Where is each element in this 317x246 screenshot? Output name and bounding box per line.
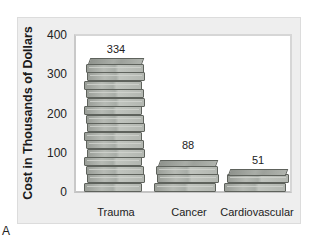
banknote-icon <box>84 81 142 90</box>
banknote-icon <box>224 183 286 192</box>
banknote-icon <box>86 140 144 149</box>
banknote-icon <box>86 166 144 175</box>
banknote-top-icon <box>88 58 145 65</box>
x-tick-cardiovascular: Cardiovascular <box>220 206 293 218</box>
banknote-top-icon <box>228 169 289 176</box>
y-tick-100: 100 <box>47 146 67 160</box>
banknote-icon <box>84 132 142 141</box>
banknote-icon <box>86 64 144 73</box>
banknote-icon <box>86 115 144 124</box>
banknote-icon <box>87 72 145 81</box>
value-label-cardiovascular: 51 <box>252 154 264 166</box>
x-tick-trauma: Trauma <box>97 206 135 218</box>
y-tick-400: 400 <box>47 28 67 42</box>
banknote-icon <box>84 157 142 166</box>
banknote-icon <box>87 149 145 158</box>
y-axis-title: Cost in Thousands of Dollars <box>21 26 35 200</box>
y-tick-0: 0 <box>60 185 67 199</box>
y-tick-200: 200 <box>47 107 67 121</box>
banknote-icon <box>86 89 144 98</box>
x-tick-cancer: Cancer <box>171 206 206 218</box>
banknote-icon <box>87 98 145 107</box>
banknote-top-icon <box>158 160 219 167</box>
bar-stack-trauma <box>86 61 146 192</box>
banknote-icon <box>84 183 142 192</box>
banknote-icon <box>154 183 216 192</box>
value-label-trauma: 334 <box>107 43 125 55</box>
banknote-icon <box>157 174 219 183</box>
banknote-icon <box>87 174 145 183</box>
bar-stack-cancer <box>156 157 220 192</box>
value-label-cancer: 88 <box>182 139 194 151</box>
banknote-icon <box>87 123 145 132</box>
bar-stack-cardiovascular <box>226 172 290 192</box>
y-tick-300: 300 <box>47 67 67 81</box>
figure-caption: A <box>2 224 10 238</box>
banknote-icon <box>84 106 142 115</box>
banknote-icon <box>156 166 218 175</box>
